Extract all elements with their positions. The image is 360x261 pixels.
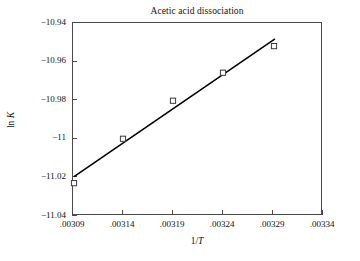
y-tick-mark: [72, 215, 77, 216]
x-tick-label: .00334: [292, 220, 352, 229]
y-tick-label: −10.98: [41, 95, 66, 104]
y-tick-mark: [72, 99, 77, 100]
chart-figure: Acetic acid dissociation ln K 1/T −10.94…: [0, 0, 360, 261]
y-tick-label: −10.96: [41, 56, 66, 65]
y-tick-mark: [72, 138, 77, 139]
y-tick-mark: [72, 22, 77, 23]
x-tick-mark: [172, 210, 173, 215]
y-axis-label: ln K: [6, 95, 17, 145]
y-tick-label: −10.94: [41, 18, 66, 27]
x-axis-label: 1/T: [72, 236, 322, 247]
x-tick-mark: [272, 210, 273, 215]
y-tick-mark: [72, 61, 77, 62]
x-tick-mark: [72, 210, 73, 215]
y-tick-label: −11.02: [41, 172, 66, 181]
chart-title: Acetic acid dissociation: [72, 5, 322, 17]
y-tick-mark: [72, 176, 77, 177]
plot-area: [72, 22, 322, 215]
x-tick-mark: [122, 210, 123, 215]
x-tick-mark: [222, 210, 223, 215]
x-tick-mark: [322, 210, 323, 215]
y-tick-label: −11: [52, 133, 66, 142]
